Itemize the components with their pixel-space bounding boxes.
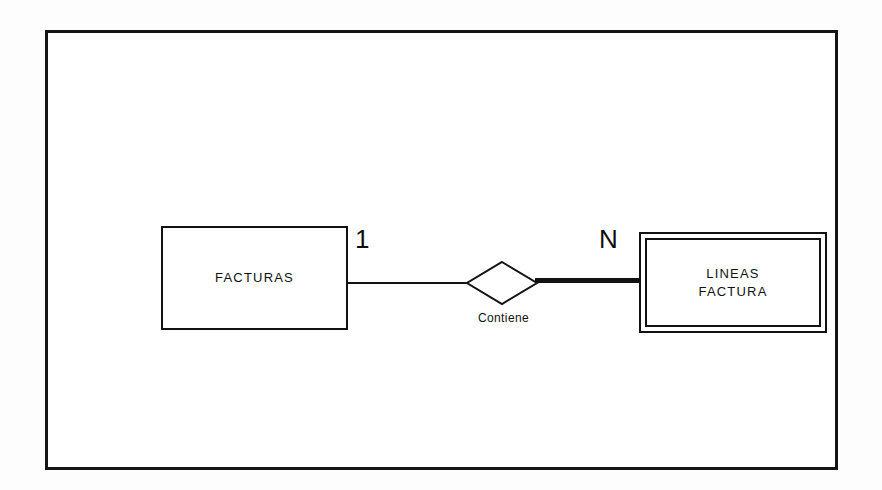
entity-facturas-label: FACTURAS [215, 269, 294, 287]
cardinality-many: N [599, 226, 618, 252]
connector-contiene-to-lineas-factura [535, 278, 640, 283]
diagram-frame: FACTURAS 1 Contiene N LINEAS FACTURA [45, 30, 838, 470]
weak-entity-inner-border: LINEAS FACTURA [645, 238, 821, 327]
connector-facturas-to-contiene [348, 282, 468, 284]
diagram-page: FACTURAS 1 Contiene N LINEAS FACTURA [0, 0, 882, 490]
entity-facturas[interactable]: FACTURAS [161, 226, 348, 330]
cardinality-one: 1 [355, 226, 369, 252]
entity-lineas-factura[interactable]: LINEAS FACTURA [639, 232, 827, 333]
diamond-shape [466, 261, 538, 305]
entity-lineas-factura-label: LINEAS FACTURA [698, 265, 767, 300]
relationship-contiene[interactable] [466, 261, 538, 305]
relationship-contiene-label: Contiene [456, 311, 551, 325]
